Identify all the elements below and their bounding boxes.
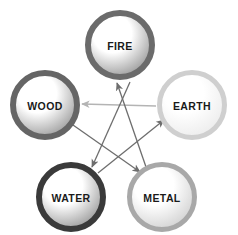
node-metal-label: METAL — [143, 192, 181, 204]
node-fire-label: FIRE — [107, 40, 133, 52]
diagram-canvas: FIREWOODEARTHWATERMETAL — [0, 0, 238, 235]
arrow-fire-to-water — [92, 82, 130, 167]
node-layer: FIREWOODEARTHWATERMETAL — [13, 13, 225, 230]
node-wood-label: WOOD — [27, 100, 62, 112]
node-fire[interactable]: FIRE — [88, 13, 152, 77]
five-elements-diagram: FIREWOODEARTHWATERMETAL — [0, 0, 238, 235]
node-water[interactable]: WATER — [39, 165, 103, 229]
node-water-label: WATER — [51, 192, 90, 204]
node-wood[interactable]: WOOD — [13, 73, 77, 137]
node-earth-label: EARTH — [173, 100, 211, 112]
node-metal[interactable]: METAL — [130, 165, 195, 230]
arrow-layer — [73, 82, 164, 173]
node-earth[interactable]: EARTH — [160, 73, 225, 138]
